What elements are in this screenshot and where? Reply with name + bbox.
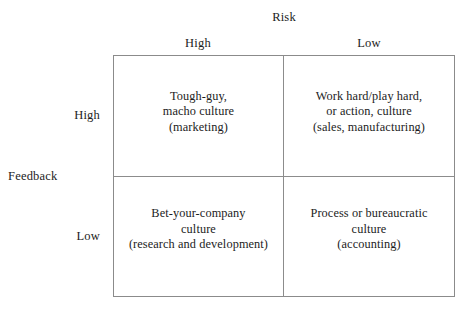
quadrant-text: Bet-your-company culture (research and d… — [129, 206, 268, 253]
quadrant-text: Tough-guy, macho culture (marketing) — [163, 89, 234, 136]
quadrant-high-feedback-low-risk: Work hard/play hard, or action, culture … — [284, 56, 454, 176]
row-header-high: High — [8, 108, 100, 123]
row-axis-title: Feedback — [8, 169, 100, 184]
column-header-low: Low — [283, 36, 455, 51]
column-header-high: High — [113, 36, 283, 51]
column-axis-title: Risk — [113, 10, 455, 25]
culture-matrix-figure: Risk High Low Feedback High Low Tough-gu… — [0, 0, 468, 314]
quadrant-low-feedback-low-risk: Process or bureaucratic culture (account… — [284, 177, 454, 296]
quadrant-text: Work hard/play hard, or action, culture … — [313, 89, 425, 136]
row-header-low: Low — [8, 229, 100, 244]
matrix-grid: Tough-guy, macho culture (marketing) Wor… — [113, 55, 455, 297]
quadrant-low-feedback-high-risk: Bet-your-company culture (research and d… — [114, 177, 283, 296]
quadrant-text: Process or bureaucratic culture (account… — [310, 206, 427, 253]
quadrant-high-feedback-high-risk: Tough-guy, macho culture (marketing) — [114, 56, 283, 176]
